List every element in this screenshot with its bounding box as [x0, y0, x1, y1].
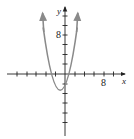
x-axis-label: x [121, 76, 126, 86]
x-axis [7, 72, 125, 77]
y-axis-label: y [56, 6, 61, 16]
y-tick-label-8: 8 [56, 29, 61, 40]
y-axis [63, 7, 68, 136]
parabola-graph: y x 8 8 [0, 0, 134, 139]
x-tick-label-8: 8 [101, 77, 106, 88]
